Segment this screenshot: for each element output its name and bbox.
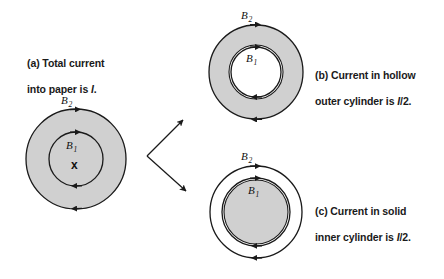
physics-figure-coaxial-cable: B 2 B 1 x B 2 B 1: [0, 0, 444, 279]
panel-c-label-b2-subscript: 2: [249, 156, 253, 165]
panel-b-field-circle-b1: [231, 47, 281, 97]
panel-c-caption-line1: (c) Current in solid: [315, 205, 406, 217]
panel-a-current-into-page-symbol: x: [71, 158, 78, 172]
arrow-to-panel-b: [147, 120, 183, 156]
panel-b-label-b2: B: [241, 9, 248, 21]
panel-c-label-b1: B: [248, 184, 255, 196]
panel-b-label-b1: B: [246, 52, 253, 64]
panel-a-label-b1-subscript: 1: [74, 145, 78, 154]
panel-b-conductor-inner-edge: [229, 45, 283, 99]
panel-b-diagram: B 2 B 1: [209, 9, 303, 120]
panel-a-caption-line1: (a) Total current: [27, 57, 104, 69]
panel-c-caption-line2-post: /2.: [399, 231, 410, 243]
panel-b-caption-line2-post: /2.: [400, 95, 411, 107]
panel-b-caption-line2-pre: outer cylinder is: [315, 95, 397, 107]
panel-b-label-b1-subscript: 1: [254, 58, 258, 67]
panel-b-label-b2-subscript: 2: [249, 15, 253, 24]
panel-a-caption: (a) Total current into paper is I.: [27, 44, 157, 96]
panel-c-label-b1-subscript: 1: [256, 190, 260, 199]
panel-c-caption-line2-pre: inner cylinder is: [315, 231, 397, 243]
panel-b-caption-line1: (b) Current in hollow: [315, 69, 416, 81]
panel-c-caption: (c) Current in solid inner cylinder is I…: [315, 192, 441, 244]
panel-a-caption-line2-pre: into paper is: [27, 83, 91, 95]
arrow-to-panel-c: [147, 156, 186, 191]
connector-arrows: [147, 120, 186, 191]
panel-a-label-b1: B: [66, 139, 73, 151]
panel-c-diagram: B 2 B 1: [210, 150, 302, 258]
panel-a-caption-line2-post: .: [94, 83, 97, 95]
panel-a-label-b2-subscript: 2: [69, 100, 73, 109]
panel-b-caption: (b) Current in hollow outer cylinder is …: [315, 56, 441, 108]
panel-a-diagram: B 2 B 1 x: [26, 94, 126, 209]
panel-c-label-b2: B: [241, 150, 248, 162]
